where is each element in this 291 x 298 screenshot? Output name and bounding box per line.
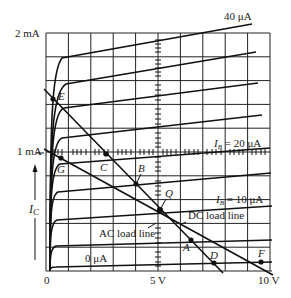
ib-value: = 20 μA bbox=[222, 137, 261, 149]
curve-label-40ua: 40 μA bbox=[224, 10, 252, 22]
x-tick-10v: 10 V bbox=[258, 274, 280, 286]
point-q-label: Q bbox=[165, 187, 173, 199]
point-b-label: B bbox=[138, 162, 145, 174]
curve-label-20ua: IB = 20 μA bbox=[213, 137, 261, 151]
x-tick-5v: 5 V bbox=[150, 274, 166, 286]
point-a-label: A bbox=[182, 241, 190, 253]
x-tick-0: 0 bbox=[44, 274, 50, 286]
axis-hash-ticks bbox=[54, 40, 265, 266]
ac-load-line-label: AC load line bbox=[99, 227, 155, 239]
characteristic-curves-svg: E C G B Q A D F 40 μA IB = 20 μA IB = 10… bbox=[0, 0, 291, 298]
curve-label-10ua: IB = 10 μA bbox=[215, 193, 263, 207]
ic-subscript: C bbox=[33, 207, 40, 217]
point-f-label: F bbox=[257, 247, 265, 259]
point-b bbox=[133, 181, 138, 186]
ic-axis-label: IC bbox=[28, 202, 40, 217]
dc-load-line-label: DC load line bbox=[188, 209, 244, 221]
y-tick-2ma: 2 mA bbox=[15, 27, 40, 39]
point-e bbox=[50, 96, 55, 101]
characteristic-curve-figure: E C G B Q A D F 40 μA IB = 20 μA IB = 10… bbox=[0, 0, 291, 298]
point-q bbox=[157, 207, 163, 213]
y-tick-1ma: 1 mA bbox=[17, 145, 42, 157]
point-d-label: D bbox=[209, 249, 218, 261]
point-c bbox=[103, 151, 108, 156]
point-c-label: C bbox=[100, 161, 108, 173]
point-g-label: G bbox=[57, 163, 65, 175]
point-f bbox=[258, 259, 263, 264]
curve-label-0ua: 0 μA bbox=[85, 252, 107, 264]
point-d bbox=[211, 260, 216, 265]
point-g bbox=[58, 155, 63, 160]
point-e-label: E bbox=[57, 90, 65, 102]
ib-value: = 10 μA bbox=[224, 193, 263, 205]
